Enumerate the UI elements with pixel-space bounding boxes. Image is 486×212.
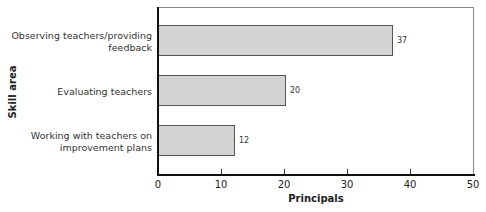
category-label-line: Evaluating teachers — [2, 86, 152, 98]
category-label: Working with teachers on improvement pla… — [2, 130, 152, 154]
category-label-line: feedback — [2, 42, 152, 54]
category-label-line: improvement plans — [2, 142, 152, 154]
x-tick — [221, 169, 222, 174]
x-axis-line — [157, 174, 475, 176]
category-label-line: Working with teachers on — [2, 130, 152, 142]
bar-improvement-plans — [159, 125, 235, 156]
bar-evaluating — [159, 75, 286, 106]
x-tick — [284, 169, 285, 174]
x-tick-label: 20 — [269, 179, 299, 190]
bar-observing — [159, 25, 393, 56]
x-tick-label: 0 — [143, 179, 173, 190]
x-tick — [410, 169, 411, 174]
bar-chart: Skill area Observing teachers/providing … — [0, 0, 486, 212]
y-axis-line — [157, 7, 159, 176]
x-tick-label: 10 — [206, 179, 236, 190]
x-tick — [347, 169, 348, 174]
category-label-line: Observing teachers/providing — [2, 30, 152, 42]
x-axis-label: Principals — [158, 193, 474, 204]
x-tick-label: 50 — [458, 179, 486, 190]
value-label: 12 — [239, 136, 249, 145]
category-label: Evaluating teachers — [2, 86, 152, 98]
value-label: 37 — [397, 36, 407, 45]
x-tick-label: 30 — [332, 179, 362, 190]
x-tick-label: 40 — [395, 179, 425, 190]
category-label: Observing teachers/providing feedback — [2, 30, 152, 54]
value-label: 20 — [290, 86, 300, 95]
